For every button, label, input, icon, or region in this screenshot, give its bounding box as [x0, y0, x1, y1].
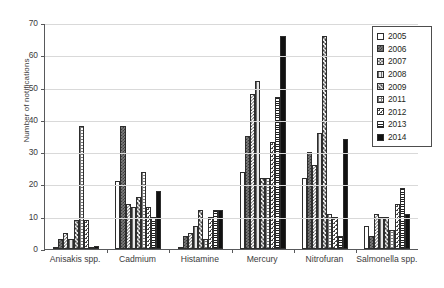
legend-swatch-icon	[377, 58, 384, 65]
legend-item[interactable]: 2006	[377, 43, 427, 56]
gridline	[45, 121, 418, 122]
bar-groups	[45, 24, 418, 249]
legend-label: 2008	[388, 69, 406, 79]
y-tick-mark	[41, 185, 45, 186]
legend-item[interactable]: 2005	[377, 30, 427, 43]
legend-label: 2011	[388, 94, 406, 104]
x-axis-labels: Anisakis spp.CadmiumHistamineMercuryNitr…	[44, 254, 418, 286]
y-tick-label: 40	[12, 115, 38, 125]
y-tick-label: 0	[12, 244, 38, 254]
bar	[84, 220, 89, 249]
y-tick-label: 10	[12, 212, 38, 222]
legend: 200520062007200820092011201220132014	[372, 26, 432, 147]
legend-label: 2014	[388, 132, 406, 142]
legend-swatch-icon	[377, 121, 384, 128]
y-tick-mark	[41, 218, 45, 219]
x-axis-label: Mercury	[231, 254, 293, 286]
bar-chart: Number of notifications 010203040506070 …	[0, 0, 444, 288]
gridline	[45, 218, 418, 219]
legend-item[interactable]: 2011	[377, 93, 427, 106]
legend-label: 2013	[388, 119, 406, 129]
plot-area	[44, 24, 418, 250]
bar	[218, 210, 223, 249]
bar-set	[302, 24, 348, 249]
legend-swatch-icon	[377, 134, 384, 141]
y-tick-mark	[41, 250, 45, 251]
bar-set	[53, 24, 99, 249]
gridline	[45, 185, 418, 186]
legend-item[interactable]: 2014	[377, 131, 427, 144]
y-tick-label: 60	[12, 50, 38, 60]
legend-item[interactable]: 2009	[377, 80, 427, 93]
gridline	[45, 89, 418, 90]
bar-set	[240, 24, 286, 249]
legend-label: 2007	[388, 56, 406, 66]
y-tick-mark	[41, 89, 45, 90]
bar	[94, 246, 99, 249]
y-tick-label: 30	[12, 147, 38, 157]
y-tick-label: 50	[12, 83, 38, 93]
bar	[405, 214, 410, 250]
x-axis-label: Histamine	[169, 254, 231, 286]
y-tick-mark	[41, 121, 45, 122]
x-axis-label: Nitrofuran	[293, 254, 355, 286]
legend-item[interactable]: 2012	[377, 106, 427, 119]
legend-swatch-icon	[377, 45, 384, 52]
y-tick-label: 70	[12, 18, 38, 28]
legend-item[interactable]: 2007	[377, 55, 427, 68]
bar-group	[107, 24, 169, 249]
y-tick-label: 20	[12, 179, 38, 189]
bar-group	[232, 24, 294, 249]
y-tick-mark	[41, 24, 45, 25]
legend-swatch-icon	[377, 96, 384, 103]
legend-item[interactable]: 2008	[377, 68, 427, 81]
legend-label: 2009	[388, 82, 406, 92]
x-axis-label: Anisakis spp.	[44, 254, 106, 286]
legend-label: 2012	[388, 107, 406, 117]
legend-swatch-icon	[377, 71, 384, 78]
bar-set	[178, 24, 224, 249]
bar-group	[294, 24, 356, 249]
y-tick-mark	[41, 153, 45, 154]
y-tick-mark	[41, 56, 45, 57]
legend-label: 2006	[388, 44, 406, 54]
gridline	[45, 153, 418, 154]
bar-group	[169, 24, 231, 249]
legend-swatch-icon	[377, 83, 384, 90]
gridline	[45, 56, 418, 57]
gridline	[45, 24, 418, 25]
x-axis-label: Salmonella spp.	[356, 254, 418, 286]
legend-swatch-icon	[377, 108, 384, 115]
legend-swatch-icon	[377, 33, 384, 40]
x-axis-label: Cadmium	[106, 254, 168, 286]
bar	[343, 139, 348, 249]
bar-group	[45, 24, 107, 249]
bar-set	[115, 24, 161, 249]
legend-item[interactable]: 2013	[377, 118, 427, 131]
legend-label: 2005	[388, 31, 406, 41]
bar	[156, 191, 161, 249]
